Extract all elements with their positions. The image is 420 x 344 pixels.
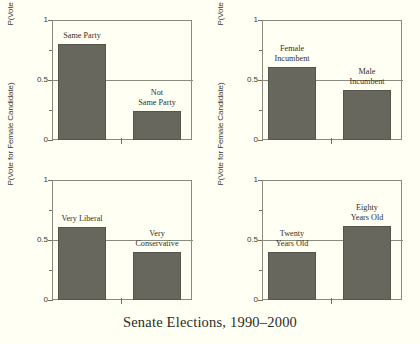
- y-tick-label-0: 0: [22, 296, 48, 304]
- bar-label-female-incumbent: Female Incumbent: [261, 44, 323, 63]
- bar-label-not-same-party: Not Same Party: [126, 88, 188, 107]
- bar-label-male-incumbent: Male Incumbent: [336, 67, 398, 86]
- y-tick-label-0.5: 0.5: [232, 76, 258, 84]
- bar-label-very-liberal: Very Liberal: [51, 214, 113, 224]
- figure-caption: Senate Elections, 1990–2000: [0, 314, 420, 331]
- y-tick-label-0: 0: [232, 296, 258, 304]
- x-tick-mark-mid: [121, 138, 122, 144]
- chart-panel-age: P(Vote for Female Candidate) 1 0.5 0 Twe…: [210, 164, 420, 324]
- bar-very-conservative: [133, 252, 181, 300]
- y-tick-mark-0: [258, 140, 263, 141]
- x-tick-mark-mid: [331, 138, 332, 144]
- bar-female-incumbent: [268, 67, 316, 140]
- y-axis-label: P(Vote for Female Candidate): [214, 0, 228, 34]
- bar-same-party: [58, 44, 106, 140]
- y-tick-label-0: 0: [22, 136, 48, 144]
- bar-label-twenty-years-old: Twenty Years Old: [261, 229, 323, 248]
- y-axis-label: P(Vote for Female Candidate): [214, 74, 228, 194]
- bar-label-very-conservative: Very Conservative: [126, 229, 188, 248]
- bar-twenty-years-old: [268, 252, 316, 300]
- chart-panel-incumbency: P(Vote for Female Candidate) 1 0.5 0 Fem…: [210, 4, 420, 164]
- bar-not-same-party: [133, 111, 181, 140]
- y-tick-mark-0: [48, 140, 53, 141]
- y-tick-label-0: 0: [232, 136, 258, 144]
- y-tick-label-1: 1: [22, 176, 48, 184]
- y-tick-mark-0: [48, 300, 53, 301]
- chart-panel-ideology: P(Vote for Female Candidate) 1 0.5 0 Ver…: [0, 164, 210, 324]
- bar-label-eighty-years-old: Eighty Years Old: [336, 203, 398, 222]
- bar-label-same-party: Same Party: [51, 31, 113, 41]
- y-tick-label-1: 1: [22, 16, 48, 24]
- y-tick-mark-0: [258, 300, 263, 301]
- bar-male-incumbent: [343, 90, 391, 140]
- bar-eighty-years-old: [343, 226, 391, 300]
- y-tick-label-0.5: 0.5: [232, 236, 258, 244]
- y-axis-label: P(Vote for Female Candidate): [4, 0, 18, 34]
- x-tick-mark-mid: [121, 298, 122, 304]
- chart-panel-same-party: P(Vote for Female Candidate) 1 0.5 0 Sam…: [0, 4, 210, 164]
- bar-very-liberal: [58, 227, 106, 300]
- y-tick-label-0.5: 0.5: [22, 76, 48, 84]
- y-tick-label-1: 1: [232, 176, 258, 184]
- y-tick-label-1: 1: [232, 16, 258, 24]
- figure-canvas: P(Vote for Female Candidate) 1 0.5 0 Sam…: [0, 0, 420, 344]
- y-axis-label: P(Vote for Female Candidate): [4, 74, 18, 194]
- y-tick-label-0.5: 0.5: [22, 236, 48, 244]
- x-tick-mark-mid: [331, 298, 332, 304]
